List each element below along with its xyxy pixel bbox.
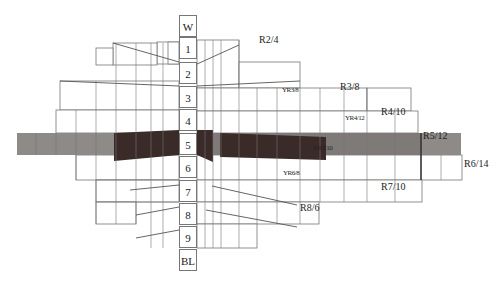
label-r3-8: R3/8 — [340, 81, 359, 92]
label-yr5-10: YR5/10 — [313, 144, 332, 152]
label-r2-4: R2/4 — [259, 34, 278, 45]
value-cell-5: 5 — [179, 133, 197, 155]
value-cell-9: 9 — [179, 226, 197, 248]
label-yr6-8: YR6/8 — [283, 169, 299, 177]
value-cell-w: W — [179, 15, 197, 37]
color-solid-grid — [0, 0, 498, 292]
label-r7-10: R7/10 — [381, 181, 405, 192]
label-r6-14: R6/14 — [464, 158, 488, 169]
label-yr4-12: YR4/12 — [345, 114, 364, 122]
label-r5-12: R5/12 — [423, 130, 447, 141]
label-yr3-8: YR3/8 — [282, 86, 298, 94]
value-cell-4: 4 — [179, 109, 197, 131]
value-cell-3: 3 — [179, 86, 197, 108]
value-cell-6: 6 — [179, 156, 197, 178]
value-cell-bl: BL — [179, 249, 197, 271]
value-cell-1: 1 — [179, 37, 197, 59]
value-cell-7: 7 — [179, 180, 197, 202]
label-r4-10: R4/10 — [381, 106, 405, 117]
value-cell-8: 8 — [179, 203, 197, 225]
label-r8-6: R8/6 — [300, 202, 319, 213]
value-cell-2: 2 — [179, 62, 197, 84]
